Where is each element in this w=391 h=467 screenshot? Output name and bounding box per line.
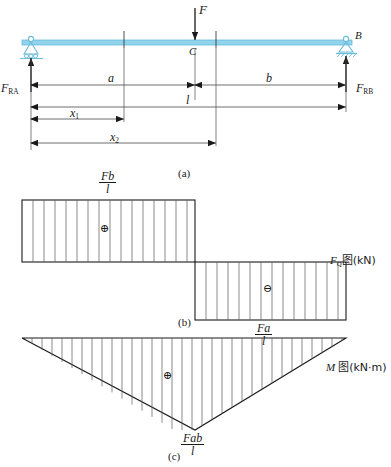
shear-positive-hatch bbox=[33, 200, 187, 262]
point-label-B: B bbox=[355, 30, 362, 41]
reaction-label-left: FRA bbox=[1, 82, 19, 95]
caption-b: (b) bbox=[178, 316, 191, 328]
caption-a: (a) bbox=[178, 167, 190, 179]
beam-group bbox=[20, 8, 357, 150]
shear-negative-denominator: l bbox=[255, 335, 272, 347]
figure-page: F C B FRA FRB a b l x1 x2 (a) Fb l ⊕ ⊖ F… bbox=[0, 0, 391, 467]
beam-bar bbox=[22, 40, 352, 45]
moment-triangle bbox=[22, 338, 346, 430]
moment-hatch bbox=[32, 338, 342, 430]
moment-axis-label: M图(kN·m) bbox=[326, 362, 387, 373]
dimension-label-x2: x2 bbox=[110, 131, 119, 144]
dimension-label-l: l bbox=[186, 94, 189, 106]
reaction-left-subscript: RA bbox=[8, 87, 18, 96]
shear-diagram-group bbox=[22, 200, 346, 320]
reaction-label-right: FRB bbox=[356, 82, 373, 95]
moment-axis-symbol: M bbox=[326, 361, 335, 373]
shear-positive-numerator: Fb bbox=[99, 170, 116, 183]
shear-axis-label: FQ图(kN) bbox=[330, 255, 376, 267]
point-label-C: C bbox=[189, 46, 196, 57]
shear-negative-sign: ⊖ bbox=[263, 283, 272, 294]
dimension-x1-subscript: 1 bbox=[75, 112, 79, 121]
caption-c: (c) bbox=[168, 450, 180, 462]
load-label-F: F bbox=[199, 3, 207, 16]
moment-peak-denominator: l bbox=[181, 445, 204, 457]
dimension-x2-subscript: 2 bbox=[115, 136, 119, 145]
support-roller-right bbox=[336, 36, 357, 57]
moment-diagram-group bbox=[22, 338, 346, 430]
dimension-label-x1: x1 bbox=[70, 107, 79, 120]
shear-positive-sign: ⊕ bbox=[100, 223, 109, 234]
shear-axis-unit: 图(kN) bbox=[342, 254, 376, 267]
shear-positive-value: Fb l bbox=[99, 170, 116, 195]
shear-negative-value: Fa l bbox=[255, 322, 272, 347]
reaction-right-subscript: RB bbox=[363, 87, 373, 96]
shear-negative-numerator: Fa bbox=[255, 322, 272, 335]
moment-positive-sign: ⊕ bbox=[163, 370, 172, 381]
shear-positive-denominator: l bbox=[99, 183, 116, 195]
beam-shear-moment-figure bbox=[0, 0, 391, 467]
shear-axis-symbol: F bbox=[330, 254, 337, 266]
moment-peak-numerator: Fab bbox=[181, 432, 204, 445]
moment-peak-value: Fab l bbox=[181, 432, 204, 457]
dimension-label-a: a bbox=[108, 72, 114, 84]
dimension-label-b: b bbox=[266, 72, 272, 84]
moment-axis-unit: 图(kN·m) bbox=[338, 361, 386, 374]
